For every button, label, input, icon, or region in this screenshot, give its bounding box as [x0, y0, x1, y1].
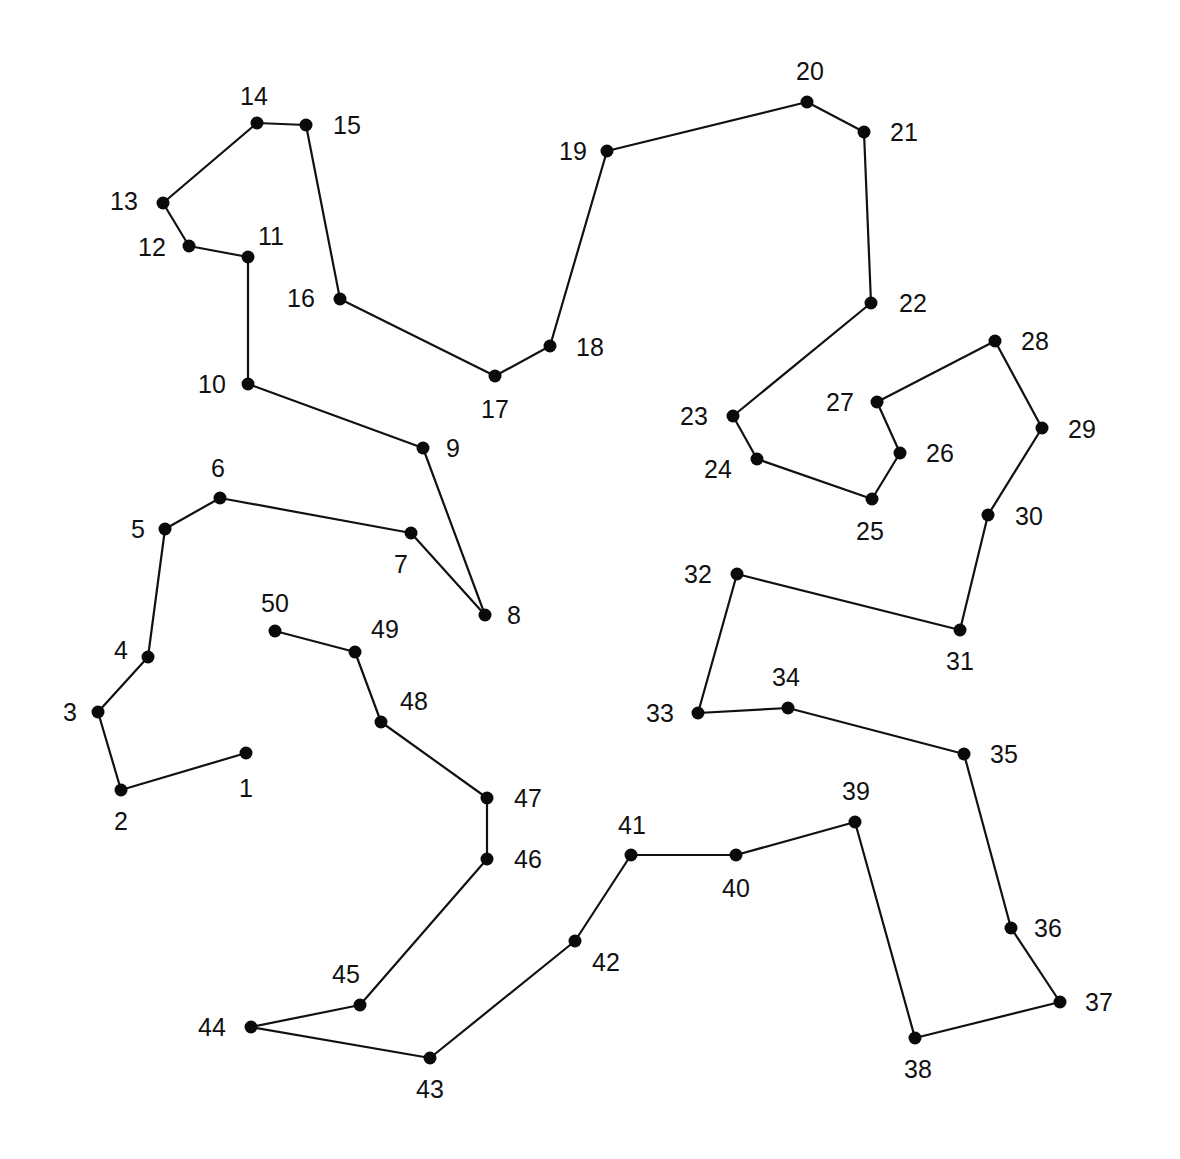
- dot-label-24: 24: [704, 455, 732, 483]
- dot-label-23: 23: [680, 402, 708, 430]
- dot-17: [489, 370, 502, 383]
- dot-13: [157, 197, 170, 210]
- dot-label-36: 36: [1034, 914, 1062, 942]
- dot-label-13: 13: [110, 187, 138, 215]
- dot-label-42: 42: [592, 948, 620, 976]
- dot-label-41: 41: [618, 811, 646, 839]
- dot-label-48: 48: [400, 687, 428, 715]
- dot-label-32: 32: [684, 560, 712, 588]
- dot-20: [801, 96, 814, 109]
- dot-15: [300, 119, 313, 132]
- dot-32: [731, 568, 744, 581]
- dot-21: [858, 126, 871, 139]
- dot-5: [159, 523, 172, 536]
- dot-37: [1054, 996, 1067, 1009]
- dot-29: [1036, 422, 1049, 435]
- dot-label-10: 10: [198, 370, 226, 398]
- dot-38: [909, 1032, 922, 1045]
- dot-label-19: 19: [559, 137, 587, 165]
- dot-4: [142, 651, 155, 664]
- dot-label-39: 39: [842, 777, 870, 805]
- dot-35: [958, 748, 971, 761]
- dot-label-25: 25: [856, 517, 884, 545]
- dot-19: [601, 145, 614, 158]
- dot-31: [954, 624, 967, 637]
- dot-39: [849, 816, 862, 829]
- connect-the-dots-diagram: 1234567891011121314151617181920212223242…: [0, 0, 1180, 1159]
- dot-3: [92, 706, 105, 719]
- dot-label-34: 34: [772, 663, 800, 691]
- dot-label-14: 14: [240, 82, 268, 110]
- dot-label-28: 28: [1021, 327, 1049, 355]
- dot-47: [481, 792, 494, 805]
- dot-10: [242, 378, 255, 391]
- dot-42: [569, 935, 582, 948]
- dot-36: [1005, 922, 1018, 935]
- dot-46: [481, 853, 494, 866]
- dot-49: [349, 646, 362, 659]
- dot-14: [251, 117, 264, 130]
- dot-33: [692, 707, 705, 720]
- dot-43: [424, 1052, 437, 1065]
- dot-label-37: 37: [1085, 988, 1113, 1016]
- dot-45: [354, 999, 367, 1012]
- dot-27: [871, 396, 884, 409]
- dot-6: [214, 492, 227, 505]
- dot-label-31: 31: [946, 647, 974, 675]
- dot-label-43: 43: [416, 1075, 444, 1103]
- dot-label-29: 29: [1068, 415, 1096, 443]
- dot-label-26: 26: [926, 439, 954, 467]
- dot-label-17: 17: [481, 395, 509, 423]
- dot-label-46: 46: [514, 845, 542, 873]
- dot-label-8: 8: [507, 601, 521, 629]
- dot-9: [417, 442, 430, 455]
- dot-label-47: 47: [514, 784, 542, 812]
- dot-label-15: 15: [333, 111, 361, 139]
- dot-1: [240, 747, 253, 760]
- dot-label-7: 7: [394, 550, 408, 578]
- dot-11: [242, 251, 255, 264]
- dot-label-40: 40: [722, 874, 750, 902]
- dot-label-11: 11: [258, 222, 284, 250]
- dot-label-30: 30: [1015, 502, 1043, 530]
- dot-label-27: 27: [826, 388, 854, 416]
- dot-label-1: 1: [239, 774, 253, 802]
- dot-41: [625, 849, 638, 862]
- dot-30: [982, 509, 995, 522]
- dot-label-12: 12: [138, 233, 166, 261]
- dot-26: [894, 447, 907, 460]
- dot-12: [183, 240, 196, 253]
- dot-label-49: 49: [371, 615, 399, 643]
- dot-34: [782, 702, 795, 715]
- dot-2: [115, 784, 128, 797]
- dot-label-22: 22: [899, 289, 927, 317]
- dot-7: [405, 527, 418, 540]
- dot-25: [866, 493, 879, 506]
- dot-24: [751, 453, 764, 466]
- dot-48: [375, 716, 388, 729]
- dot-label-3: 3: [63, 698, 77, 726]
- dot-16: [334, 293, 347, 306]
- dot-22: [865, 297, 878, 310]
- dot-label-21: 21: [890, 118, 918, 146]
- dot-label-33: 33: [646, 699, 674, 727]
- dot-28: [989, 335, 1002, 348]
- dot-44: [245, 1021, 258, 1034]
- dot-label-38: 38: [904, 1055, 932, 1083]
- dot-8: [479, 609, 492, 622]
- dot-label-9: 9: [446, 434, 460, 462]
- dot-label-45: 45: [332, 960, 360, 988]
- dot-label-35: 35: [990, 740, 1018, 768]
- dot-label-2: 2: [114, 807, 128, 835]
- dot-label-20: 20: [796, 57, 824, 85]
- dot-label-5: 5: [131, 515, 145, 543]
- dot-18: [544, 340, 557, 353]
- dot-label-44: 44: [198, 1013, 226, 1041]
- dot-50: [269, 625, 282, 638]
- dot-label-50: 50: [261, 589, 289, 617]
- dot-23: [727, 410, 740, 423]
- dot-40: [730, 849, 743, 862]
- dot-label-18: 18: [576, 333, 604, 361]
- dot-label-4: 4: [114, 636, 128, 664]
- background: [0, 0, 1180, 1159]
